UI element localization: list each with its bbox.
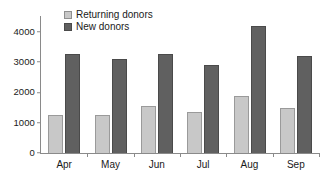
x-axis-label-jul: Jul bbox=[197, 160, 210, 170]
x-axis-label-may: May bbox=[101, 160, 120, 170]
y-axis-tick-label: 3000 bbox=[13, 57, 35, 67]
bar-jul-new bbox=[204, 65, 219, 153]
legend-swatch-icon-new bbox=[64, 23, 72, 31]
bar-may-new bbox=[112, 59, 127, 153]
bar-sep-returning bbox=[280, 108, 295, 153]
y-axis-tick: 1000 bbox=[13, 118, 41, 128]
y-axis-tick-label: 1000 bbox=[13, 118, 35, 128]
bar-sep-new bbox=[297, 56, 312, 153]
bar-jun-new bbox=[158, 54, 173, 154]
y-axis-tick: 2000 bbox=[13, 88, 41, 98]
y-axis-tick-mark bbox=[37, 92, 41, 93]
x-axis-label-aug: Aug bbox=[241, 160, 259, 170]
y-axis-tick: 0 bbox=[30, 148, 41, 158]
bar-jun-returning bbox=[141, 106, 156, 153]
x-axis-tick-mark bbox=[319, 153, 320, 157]
y-axis-tick-label: 0 bbox=[30, 148, 35, 158]
bar-aug-new bbox=[251, 26, 266, 153]
x-axis-tick-mark bbox=[226, 153, 227, 157]
x-axis-label-sep: Sep bbox=[287, 160, 305, 170]
x-axis-tick-mark bbox=[180, 153, 181, 157]
legend-swatch-icon-returning bbox=[64, 11, 72, 19]
x-axis-tick-mark bbox=[273, 153, 274, 157]
bar-chart: 01000200030004000AprMayJunJulAugSep Retu… bbox=[0, 0, 327, 183]
x-axis-label-jun: Jun bbox=[149, 160, 165, 170]
bar-aug-returning bbox=[234, 96, 249, 153]
bar-apr-returning bbox=[48, 115, 63, 153]
legend-label-returning: Returning donors bbox=[76, 10, 153, 20]
y-axis-tick-label: 2000 bbox=[13, 88, 35, 98]
y-axis-tick-mark bbox=[37, 31, 41, 32]
chart-legend: Returning donors New donors bbox=[64, 10, 153, 32]
y-axis-tick: 4000 bbox=[13, 27, 41, 37]
y-axis-tick: 3000 bbox=[13, 57, 41, 67]
x-axis-label-apr: Apr bbox=[56, 160, 72, 170]
legend-label-new: New donors bbox=[76, 22, 129, 32]
x-axis-tick-mark bbox=[87, 153, 88, 157]
plot-area: 01000200030004000AprMayJunJulAugSep bbox=[41, 18, 319, 153]
bar-may-returning bbox=[95, 115, 110, 153]
y-axis-tick-mark bbox=[37, 153, 41, 154]
bar-apr-new bbox=[65, 54, 80, 154]
y-axis-tick-mark bbox=[37, 122, 41, 123]
y-axis-tick-mark bbox=[37, 61, 41, 62]
legend-item-returning-donors: Returning donors bbox=[64, 10, 153, 20]
bar-jul-returning bbox=[187, 112, 202, 153]
legend-item-new-donors: New donors bbox=[64, 22, 153, 32]
y-axis-tick-label: 4000 bbox=[13, 27, 35, 37]
x-axis-tick-mark bbox=[134, 153, 135, 157]
